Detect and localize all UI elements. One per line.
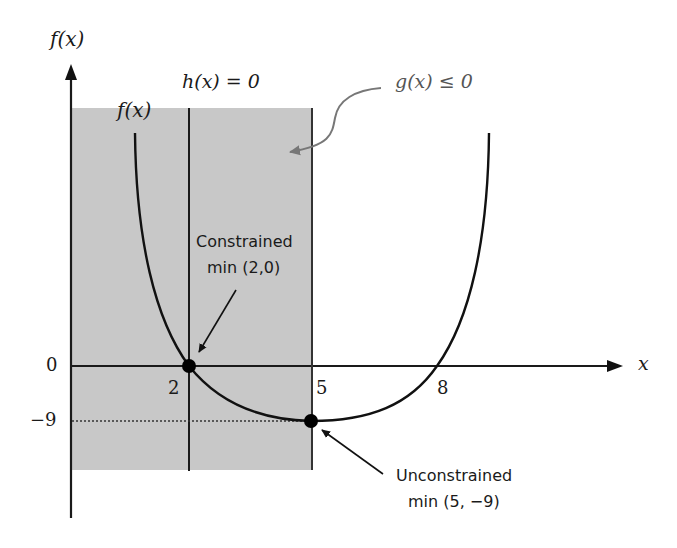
y-axis-label: f(x) [50,29,84,49]
x-tick-2: 2 [168,379,179,397]
unconstrained-min-label-line1: Unconstrained [396,468,512,484]
x-axis-arrowhead [607,360,623,372]
unconstrained-min-label-line2: min (5, −9) [408,494,500,510]
x-axis-label: x [638,354,649,373]
x-tick-5: 5 [316,379,327,397]
constrained-min-label-line1: Constrained [196,234,293,250]
equality-constraint-label: h(x) = 0 [182,72,260,91]
unconstrained-arrow [322,430,383,474]
constrained-min-point [182,359,196,373]
unconstrained-min-point [304,414,318,428]
diagram-svg [0,0,677,548]
y-tick-minus-9: −9 [30,411,57,429]
y-tick-0: 0 [46,356,57,374]
inequality-constraint-label: g(x) ≤ 0 [395,72,473,91]
x-tick-8: 8 [437,379,448,397]
feasible-region [72,108,312,470]
constrained-min-label-line2: min (2,0) [207,260,280,276]
curve-label: f(x) [117,100,151,120]
optimization-diagram: f(x) x 0 −9 2 5 8 f(x) h(x) = 0 g(x) ≤ 0… [0,0,677,548]
y-axis-arrowhead [65,64,77,80]
